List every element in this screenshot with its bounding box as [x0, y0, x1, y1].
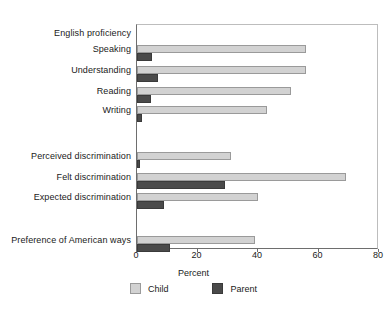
x-tick-label: 20 — [177, 250, 217, 260]
category-label: Understanding — [0, 65, 131, 75]
legend-item-child: Child — [130, 283, 169, 294]
bar-child — [137, 152, 231, 160]
category-label: Writing — [0, 105, 131, 115]
x-tick-label: 60 — [298, 250, 338, 260]
category-label: Reading — [0, 86, 131, 96]
x-tick-label: 40 — [237, 250, 277, 260]
legend-swatch-child-icon — [130, 283, 141, 294]
legend-label-parent: Parent — [230, 284, 257, 294]
x-tick-label: 0 — [116, 250, 156, 260]
bar-child — [137, 66, 306, 74]
category-label: Felt discrimination — [0, 172, 131, 182]
bar-child — [137, 236, 255, 244]
category-label: Perceived discrimination — [0, 151, 131, 161]
chart-legend: Child Parent — [0, 283, 387, 294]
bar-child — [137, 106, 267, 114]
bar-parent — [137, 95, 151, 103]
bar-parent — [137, 114, 142, 122]
bar-parent — [137, 53, 152, 61]
category-label: Speaking — [0, 44, 131, 54]
bar-chart: English proficiencySpeakingUnderstanding… — [0, 0, 387, 310]
legend-item-parent: Parent — [212, 283, 257, 294]
x-tick-label: 80 — [358, 250, 387, 260]
category-label: Expected discrimination — [0, 192, 131, 202]
bar-parent — [137, 160, 140, 168]
category-group-header: English proficiency — [0, 28, 131, 38]
bar-parent — [137, 181, 225, 189]
bar-parent — [137, 74, 158, 82]
plot-area — [136, 24, 378, 249]
legend-swatch-parent-icon — [212, 283, 223, 294]
bar-child — [137, 45, 306, 53]
category-label: Preference of American ways — [0, 235, 131, 245]
legend-label-child: Child — [148, 284, 169, 294]
bar-parent — [137, 201, 164, 209]
bar-child — [137, 87, 291, 95]
x-axis-label: Percent — [0, 268, 387, 278]
bar-child — [137, 173, 346, 181]
bar-child — [137, 193, 258, 201]
category-label-column: English proficiencySpeakingUnderstanding… — [0, 0, 131, 249]
